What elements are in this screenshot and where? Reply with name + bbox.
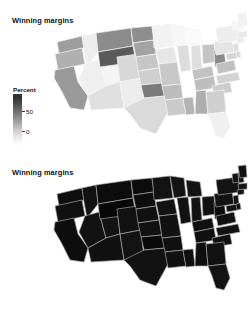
state-ar — [162, 236, 183, 252]
state-ga — [206, 242, 226, 266]
state-ct — [237, 37, 244, 43]
tick-line-icon — [22, 131, 25, 132]
state-mn — [152, 24, 173, 48]
legend-top-colorbar — [13, 94, 22, 146]
state-ok — [141, 235, 165, 250]
state-la — [165, 250, 186, 268]
state-ks — [138, 68, 162, 85]
state-fl — [208, 112, 230, 138]
state-me — [238, 13, 247, 26]
figure-bottom-winning-margins: Winning margins — [0, 158, 249, 313]
state-in — [191, 197, 202, 222]
map-bottom — [0, 158, 249, 313]
state-mi — [186, 180, 202, 197]
state-ok — [141, 83, 165, 98]
state-oh — [202, 196, 216, 216]
figure-top-winning-margins: Winning margins — [0, 0, 249, 158]
state-ks — [138, 220, 162, 237]
state-ct — [237, 189, 244, 195]
legend-top-tick-label-0: 50 — [26, 108, 33, 115]
state-la — [165, 98, 186, 116]
state-mn — [152, 176, 173, 200]
state-fl — [208, 264, 230, 290]
legend-top-ticks: 50 0 — [22, 94, 59, 146]
legend-top: Percent 50 0 — [13, 86, 59, 146]
state-mi — [186, 28, 202, 45]
legend-top-body: 50 0 — [13, 94, 59, 146]
map-top-states — [54, 13, 247, 138]
state-de — [236, 203, 241, 210]
map-bottom-states — [54, 165, 247, 290]
state-mo — [159, 62, 181, 86]
state-il — [177, 197, 191, 224]
legend-top-tick-label-1: 0 — [26, 128, 29, 135]
state-me — [238, 165, 247, 178]
state-ia — [156, 199, 177, 216]
state-in — [191, 45, 202, 70]
legend-top-title: Percent — [13, 86, 59, 93]
map-bottom-svg — [0, 158, 249, 313]
state-il — [177, 45, 191, 72]
state-ia — [156, 47, 177, 64]
state-ga — [206, 90, 226, 114]
tick-line-icon — [22, 111, 25, 112]
state-ar — [162, 84, 183, 100]
state-mo — [159, 214, 181, 238]
state-de — [236, 51, 241, 58]
